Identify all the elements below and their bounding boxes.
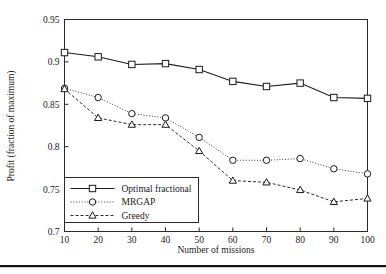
y-tick-label: 0.75	[43, 185, 60, 195]
x-tick-label: 30	[127, 235, 137, 245]
data-point	[230, 78, 236, 84]
legend-marker	[89, 185, 95, 191]
series-mrgap	[61, 85, 370, 177]
figure-container: 0.70.750.80.850.90.95 102030405060708090…	[0, 0, 386, 274]
data-point	[129, 61, 135, 67]
x-tick-label: 100	[360, 235, 375, 245]
data-point	[297, 80, 303, 86]
data-point	[196, 66, 202, 72]
data-point	[162, 60, 168, 66]
data-point	[196, 147, 203, 153]
y-tick-label: 0.85	[43, 100, 60, 110]
y-tick-label: 0.8	[48, 142, 60, 152]
x-tick-label: 60	[228, 235, 238, 245]
x-tick-label: 50	[194, 235, 204, 245]
data-point	[364, 171, 370, 177]
legend-label: Optimal fractional	[122, 184, 192, 194]
data-point	[263, 157, 269, 163]
data-point	[95, 54, 101, 60]
x-tick-label: 70	[262, 235, 272, 245]
y-tick-label: 0.7	[48, 227, 60, 237]
data-point	[331, 166, 337, 172]
x-tick-label: 20	[93, 235, 103, 245]
data-point	[230, 157, 236, 163]
data-point	[297, 155, 303, 161]
x-tick-label: 90	[329, 235, 339, 245]
data-point	[61, 49, 67, 55]
line-chart: 0.70.750.80.850.90.95 102030405060708090…	[0, 0, 386, 274]
x-tick-label: 10	[60, 235, 70, 245]
y-axis-title: Profit (fraction of maximum)	[6, 70, 17, 181]
y-tick-label: 0.9	[48, 57, 60, 67]
x-axis-title: Number of missions	[177, 245, 254, 255]
data-point	[331, 94, 337, 100]
x-axis: 102030405060708090100	[60, 228, 375, 245]
legend-label: MRGAP	[122, 197, 156, 207]
data-point	[364, 195, 371, 201]
legend-marker	[89, 199, 95, 205]
data-point	[263, 83, 269, 89]
series-optimal-fractional	[61, 49, 370, 101]
data-point	[196, 134, 202, 140]
x-tick-label: 80	[295, 235, 305, 245]
data-point	[364, 95, 370, 101]
legend-label: Greedy	[122, 211, 150, 221]
data-point	[162, 121, 169, 127]
chart-legend: Optimal fractionalMRGAPGreedy	[65, 178, 199, 223]
x-tick-label: 40	[161, 235, 171, 245]
y-tick-label: 0.95	[43, 15, 60, 25]
data-point	[95, 94, 101, 100]
footer-rule	[0, 265, 386, 267]
data-point	[129, 110, 135, 116]
